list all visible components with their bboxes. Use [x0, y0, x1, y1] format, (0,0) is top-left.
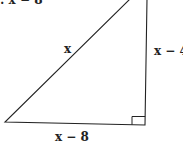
triangle-outline — [5, 0, 147, 125]
hypotenuse-label: x — [64, 43, 71, 55]
top-cropped-label: : x − 8 — [0, 0, 43, 6]
triangle-figure — [0, 0, 183, 144]
vertical-leg-label: x − 4 — [154, 45, 183, 57]
horizontal-leg-label: x − 8 — [55, 131, 89, 143]
triangle-diagram: : x − 8 x x − 4 x − 8 — [0, 0, 183, 144]
right-angle-marker — [132, 117, 145, 125]
